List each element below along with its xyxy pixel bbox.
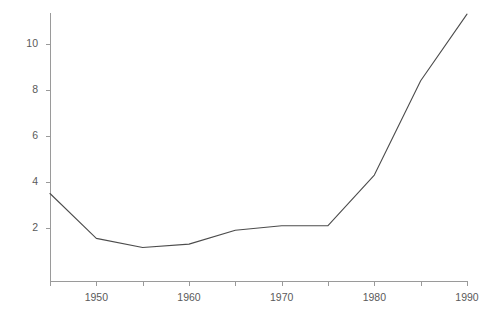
x-tick-label: 1960 — [169, 291, 209, 303]
x-tick-label: 1970 — [262, 291, 302, 303]
x-tick-label: 1950 — [76, 291, 116, 303]
y-tick-label: 8 — [10, 83, 38, 95]
data-series-group — [50, 14, 467, 247]
x-tick-label: 1980 — [354, 291, 394, 303]
line-chart: 108642 19501960197019801990 — [0, 0, 490, 318]
data-line-series-1 — [50, 14, 467, 247]
chart-plot-area — [0, 0, 490, 318]
y-tick-marks — [46, 45, 50, 229]
y-tick-label: 6 — [10, 129, 38, 141]
y-tick-label: 10 — [10, 37, 38, 49]
x-tick-label: 1990 — [447, 291, 487, 303]
y-tick-label: 4 — [10, 175, 38, 187]
y-tick-label: 2 — [10, 221, 38, 233]
